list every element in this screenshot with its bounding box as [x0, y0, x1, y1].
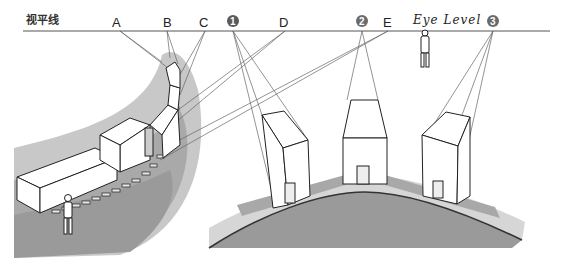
vp-label-d: D: [279, 15, 288, 30]
svg-text:3: 3: [490, 16, 496, 27]
vp-label-a: A: [112, 15, 121, 30]
svg-text:2: 2: [359, 16, 365, 27]
vp-label-c: C: [199, 15, 208, 30]
svg-text:1: 1: [230, 16, 236, 27]
right-street: [209, 175, 525, 248]
vp-marker-2: 2: [356, 15, 368, 27]
vp-marker-3: 3: [487, 15, 499, 27]
figure-horizon: [421, 30, 429, 67]
building-3: [422, 112, 470, 204]
vp-marker-1: 1: [227, 15, 239, 27]
horizon-label-en: Eye Level: [412, 13, 481, 27]
horizon-label-cn: 视平线: [26, 13, 59, 27]
building-2: [343, 100, 387, 184]
vp-label-b: B: [163, 15, 172, 30]
vp-label-e: E: [383, 15, 392, 30]
perspective-diagram: 视平线 A B C D E Eye Level 1 2 3: [0, 0, 561, 268]
building-1: [262, 111, 310, 208]
